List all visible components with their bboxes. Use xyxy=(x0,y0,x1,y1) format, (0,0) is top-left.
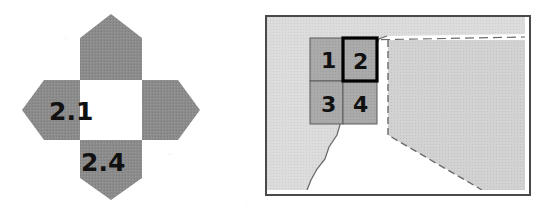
quadrant-rose-diagram: 2.1 2.4 xyxy=(18,8,238,206)
figure-canvas: 2.1 2.4 xyxy=(0,0,547,214)
quadrant-grid: 1 2 3 4 xyxy=(310,38,377,124)
rose-petal-east xyxy=(142,80,200,140)
west-coast-locator-map: 1 2 3 4 xyxy=(265,15,531,196)
rose-petal-north xyxy=(80,14,142,80)
quadrant-label-1: 1 xyxy=(321,48,336,73)
quadrant-label-2: 2 xyxy=(353,49,368,74)
quadrant-label-3: 3 xyxy=(321,92,336,117)
quadrant-label-4: 4 xyxy=(353,92,368,117)
rose-label-south: 2.4 xyxy=(81,148,125,177)
rose-label-west: 2.1 xyxy=(49,97,93,126)
